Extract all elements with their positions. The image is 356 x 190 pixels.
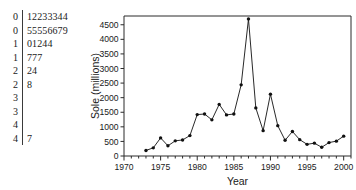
data-point [291,130,294,133]
data-point [320,146,323,149]
y-tick-label: 1500 [99,107,118,117]
y-tick-label: 0 [114,151,119,161]
data-point [232,112,235,115]
stem-value: 4 [6,132,22,146]
data-point [217,103,220,106]
stem-and-leaf-plot: 01223334405555667910124417772242833447 [6,10,94,145]
stem-value: 4 [6,118,22,132]
stem-value: 1 [6,37,22,51]
stem-value: 0 [6,10,22,24]
axis-left-bottom [124,16,351,156]
data-point [261,129,264,132]
leaf-values: 01244 [22,37,94,51]
figure-root: 01223334405555667910124417772242833447 0… [0,0,356,190]
y-tick-label: 4500 [99,20,118,30]
data-point [181,138,184,141]
leaf-values: 777 [22,51,94,65]
x-tick-label: 2000 [334,162,353,172]
data-point [327,141,330,144]
y-tick-label: 3500 [99,49,118,59]
x-tick-label: 1995 [298,162,317,172]
x-tick-label: 1975 [151,162,170,172]
data-point [283,139,286,142]
stem-value: 1 [6,51,22,65]
leaf-values: 12233344 [22,10,94,24]
data-point [254,106,257,109]
data-point [225,113,228,116]
stem-value: 3 [6,105,22,119]
y-tick-label: 2500 [99,78,118,88]
leaf-values: 24 [22,64,94,78]
leaf-values [22,91,94,105]
y-tick-label: 3000 [99,64,118,74]
sole-landings-line-chart: 0500100015002000250030003500400045001970… [88,0,356,190]
data-point [247,17,250,20]
data-point [174,139,177,142]
stem-leaf-row: 47 [6,132,94,146]
x-tick-label: 1980 [188,162,207,172]
data-point [166,144,169,147]
stem-leaf-row: 012233344 [6,10,94,24]
stem-leaf-row: 3 [6,91,94,105]
data-point [196,113,199,116]
data-point [313,141,316,144]
stem-leaf-row: 224 [6,64,94,78]
stem-value: 2 [6,78,22,92]
data-point [203,112,206,115]
data-point [335,139,338,142]
axis-top-right [124,16,351,156]
y-axis-title: Sole (millions) [89,53,101,119]
x-tick-label: 1985 [224,162,243,172]
x-tick-label: 1970 [114,162,133,172]
data-point [269,92,272,95]
series-line-sole [146,19,344,151]
leaf-values: 7 [22,132,94,146]
data-point [159,136,162,139]
stem-leaf-row: 28 [6,78,94,92]
data-point [144,149,147,152]
data-point [305,143,308,146]
stem-leaf-row: 1777 [6,51,94,65]
data-point [298,138,301,141]
stem-leaf-row: 101244 [6,37,94,51]
y-tick-label: 1000 [99,122,118,132]
leaf-values: 8 [22,78,94,92]
y-tick-label: 500 [104,137,119,147]
stem-leaf-row: 3 [6,105,94,119]
data-point [239,83,242,86]
data-point [188,134,191,137]
stem-value: 0 [6,24,22,38]
data-point [210,118,213,121]
chart-svg: 0500100015002000250030003500400045001970… [88,0,356,190]
stem-leaf-row: 4 [6,118,94,132]
x-axis-title: Year [227,175,249,187]
stem-value: 3 [6,91,22,105]
stem-value: 2 [6,64,22,78]
leaf-values [22,118,94,132]
y-tick-label: 4000 [99,34,118,44]
x-tick-label: 1990 [261,162,280,172]
data-point [276,124,279,127]
y-tick-label: 2000 [99,93,118,103]
data-point [152,146,155,149]
stem-leaf-row: 055556679 [6,24,94,38]
data-point [342,134,345,137]
leaf-values [22,105,94,119]
leaf-values: 55556679 [22,24,94,38]
